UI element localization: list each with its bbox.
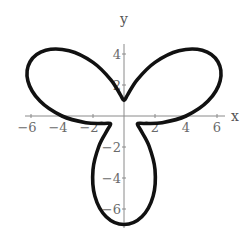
polar-plot: −6−4−2246 42−2−4−6 x y: [0, 0, 246, 236]
x-tick-label: −4: [48, 120, 67, 135]
y-axis-label: y: [119, 11, 128, 27]
x-tick-label: 4: [182, 120, 190, 135]
x-axis-ticks: −6−4−2246: [17, 114, 221, 135]
y-tick-label: −4: [102, 171, 121, 186]
x-tick-label: 6: [213, 120, 221, 135]
x-axis-label: x: [231, 108, 239, 124]
y-tick-label: 4: [113, 47, 121, 62]
y-tick-label: −2: [102, 140, 121, 155]
x-tick-label: −6: [17, 120, 36, 135]
